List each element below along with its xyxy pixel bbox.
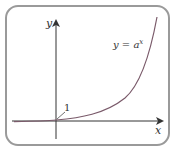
exponential-diagram: 1 y x y = ax	[0, 0, 176, 151]
curve-label: y = ax	[112, 38, 143, 50]
x-axis-label: x	[155, 124, 162, 137]
y-axis-label: y	[45, 17, 53, 30]
frame	[6, 6, 169, 145]
intercept-label: 1	[64, 102, 70, 113]
